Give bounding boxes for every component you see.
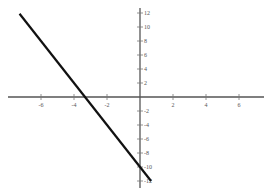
x-tick-label: -6 (39, 102, 44, 108)
y-tick-label: -10 (144, 164, 152, 170)
y-tick-label: 6 (144, 52, 147, 58)
y-tick-label: 2 (144, 80, 147, 86)
coordinate-plane: -6-4-224612108642-2-4-6-8-10-12 (0, 0, 268, 194)
x-tick-label: 4 (205, 102, 208, 108)
x-tick-label: 2 (172, 102, 175, 108)
x-tick-label: -2 (105, 102, 110, 108)
x-tick-label: -4 (72, 102, 77, 108)
y-tick-label: -8 (144, 150, 149, 156)
y-tick-label: -6 (144, 136, 149, 142)
y-tick-label: 10 (144, 24, 150, 30)
x-tick-label: 6 (238, 102, 241, 108)
y-tick-label: 12 (144, 10, 150, 16)
y-tick-label: -2 (144, 108, 149, 114)
y-tick-label: 8 (144, 38, 147, 44)
y-tick-label: -4 (144, 122, 149, 128)
y-tick-label: 4 (144, 66, 147, 72)
